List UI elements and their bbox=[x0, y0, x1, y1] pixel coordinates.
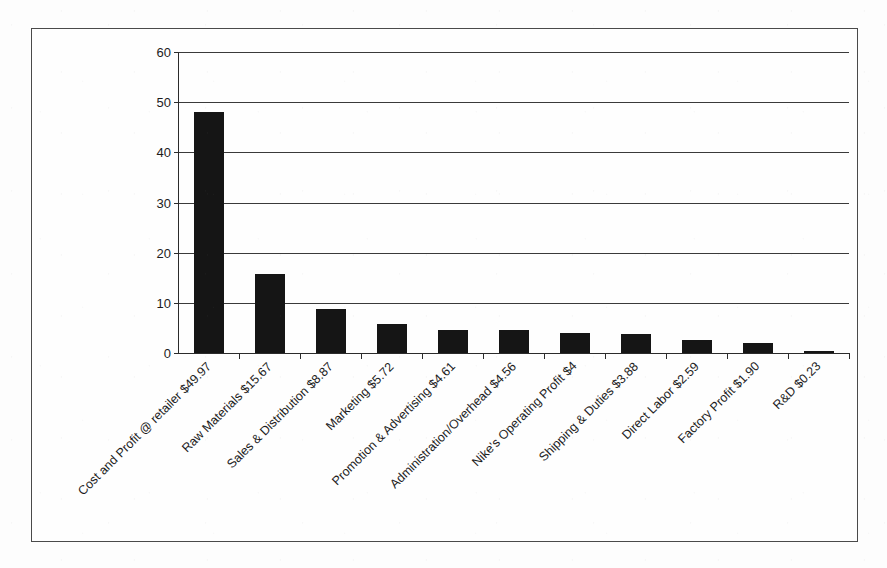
x-tick-mark bbox=[788, 353, 789, 359]
x-tick-mark bbox=[727, 353, 728, 359]
y-tick-label: 30 bbox=[157, 196, 171, 209]
scanned-page-background: 0102030405060 Cost and Profit @ retailer… bbox=[0, 0, 887, 568]
y-tick-mark bbox=[174, 353, 179, 354]
figure-frame: 0102030405060 Cost and Profit @ retailer… bbox=[31, 28, 858, 542]
x-tick-mark bbox=[849, 353, 850, 359]
x-tick-mark bbox=[666, 353, 667, 359]
x-tick-mark bbox=[422, 353, 423, 359]
x-tick-mark bbox=[361, 353, 362, 359]
x-tick-mark bbox=[605, 353, 606, 359]
gridline-0 bbox=[178, 353, 849, 354]
x-axis-label: Promotion & Advertising $4.61 bbox=[330, 360, 458, 488]
y-tick-label: 10 bbox=[157, 296, 171, 309]
y-tick-label: 40 bbox=[157, 146, 171, 159]
x-tick-mark bbox=[239, 353, 240, 359]
x-tick-mark bbox=[300, 353, 301, 359]
y-tick-label: 50 bbox=[157, 96, 171, 109]
x-axis-label: Nike's Operating Profit $4 bbox=[470, 360, 579, 469]
y-tick-label: 0 bbox=[164, 347, 171, 360]
x-axis-label: R&D $0.23 bbox=[771, 360, 823, 412]
x-axis-label: Administration/Overhead $4.56 bbox=[388, 360, 519, 491]
y-tick-label: 60 bbox=[157, 46, 171, 59]
x-axis-label: Cost and Profit @ retailer $49.97 bbox=[76, 360, 214, 498]
x-tick-mark bbox=[483, 353, 484, 359]
x-axis-labels-group: Cost and Profit @ retailer $49.97Raw Mat… bbox=[178, 52, 849, 353]
x-axis-label: Sales & Distribution $8.87 bbox=[225, 360, 336, 471]
x-tick-mark bbox=[544, 353, 545, 359]
y-tick-label: 20 bbox=[157, 246, 171, 259]
